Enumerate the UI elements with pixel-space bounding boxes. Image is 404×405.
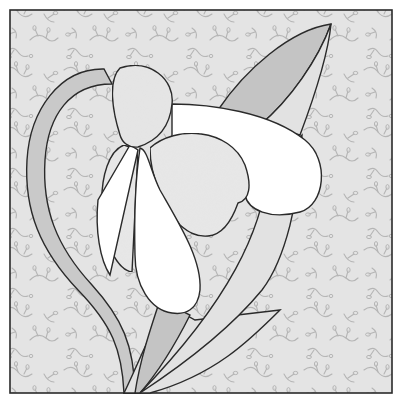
- snowdrop-illustration: [0, 0, 404, 405]
- quilt-block-canvas: [0, 0, 404, 405]
